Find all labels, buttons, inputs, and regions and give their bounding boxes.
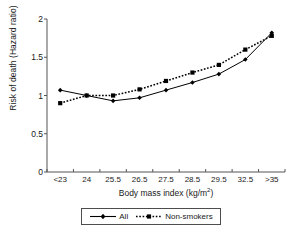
- chart-legend: All Non-smokers: [81, 208, 221, 225]
- plot-area: [0, 0, 296, 232]
- legend-swatch-non-smokers: [135, 212, 163, 221]
- legend-label-non-smokers: Non-smokers: [165, 212, 213, 221]
- data-point-1-1: [85, 93, 89, 97]
- data-point-1-0: [58, 101, 62, 105]
- data-point-1-6: [217, 63, 221, 67]
- data-point-0-6: [217, 72, 222, 77]
- legend-swatch-all: [89, 212, 117, 221]
- series-line-non-smokers: [60, 36, 272, 103]
- data-point-1-2: [111, 93, 115, 97]
- data-point-1-8: [270, 34, 274, 38]
- data-point-1-4: [164, 79, 168, 83]
- chart-figure: Risk of death (Hazard ratio) Body mass i…: [0, 0, 296, 232]
- data-point-1-3: [137, 87, 141, 91]
- data-point-1-5: [190, 70, 194, 74]
- legend-label-all: All: [119, 212, 128, 221]
- data-point-0-3: [137, 95, 142, 100]
- axes: [44, 19, 285, 172]
- legend-entry-non-smokers[interactable]: Non-smokers: [135, 212, 213, 221]
- data-point-0-2: [111, 99, 116, 104]
- data-point-1-7: [243, 48, 247, 52]
- data-point-0-0: [58, 88, 63, 93]
- data-series: [58, 30, 274, 105]
- data-point-0-4: [164, 88, 169, 93]
- legend-entry-all[interactable]: All: [89, 212, 128, 221]
- data-point-0-5: [190, 80, 195, 85]
